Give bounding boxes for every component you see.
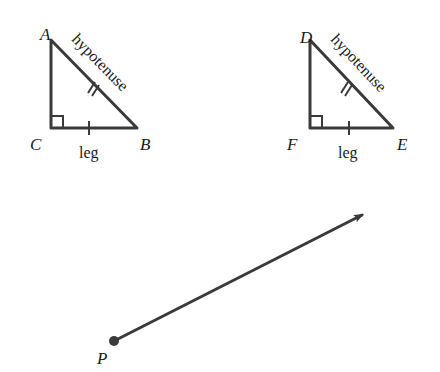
ray-p: P <box>96 215 362 368</box>
vertex-label-d: D <box>299 28 313 47</box>
triangle-def: D F E leg hypotenuse <box>286 28 408 162</box>
vertex-label-c: C <box>30 135 42 154</box>
leg-label: leg <box>79 144 99 162</box>
vertex-label-f: F <box>286 135 298 154</box>
ray-line <box>114 215 362 341</box>
right-angle-marker-f <box>310 116 322 128</box>
hypotenuse-label: hypotenuse <box>327 30 390 95</box>
point-label-p: P <box>96 349 107 368</box>
geometry-diagram: A C B leg hypotenuse D F E leg hypotenus… <box>0 0 440 372</box>
vertex-label-b: B <box>140 135 151 154</box>
vertex-label-a: A <box>39 25 51 44</box>
triangle-abc: A C B leg hypotenuse <box>30 25 151 162</box>
right-angle-marker-c <box>51 116 63 128</box>
leg-label: leg <box>338 144 358 162</box>
hypotenuse-label: hypotenuse <box>68 30 132 95</box>
point-p-dot <box>109 336 119 346</box>
vertex-label-e: E <box>396 135 408 154</box>
